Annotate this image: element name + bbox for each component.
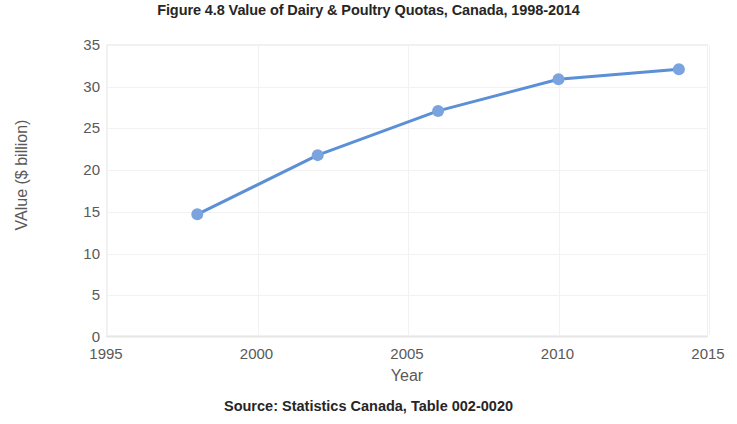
data-point-2006[interactable]: 2006: 27.1 [432,105,444,117]
series-line-chart: 1998: 14.72002: 21.82006: 27.12010: 30.9… [107,45,709,337]
source-note: Source: Statistics Canada, Table 002-002… [0,398,737,414]
x-axis-tick-labels: 19952000200520102015 [106,345,708,367]
y-tick-label-30: 30 [62,77,100,94]
x-tick-label-2000: 2000 [222,345,292,362]
y-axis-title: VAlue ($ billion) [13,75,31,275]
y-tick-label-10: 10 [62,244,100,261]
y-tick-label-20: 20 [62,161,100,178]
data-point-2010[interactable]: 2010: 30.9 [553,73,565,85]
x-axis-line [106,336,708,337]
x-axis-title: Year [106,367,708,385]
y-tick-label-15: 15 [62,202,100,219]
y-tick-label-35: 35 [62,36,100,53]
y-tick-label-0: 0 [62,328,100,345]
x-tick-label-2005: 2005 [372,345,442,362]
plot-area: 1998: 14.72002: 21.82006: 27.12010: 30.9… [106,44,708,336]
data-point-2002[interactable]: 2002: 21.8 [312,149,324,161]
gridline-x-2015 [709,45,710,335]
x-tick-label-2015: 2015 [673,345,737,362]
y-tick-label-25: 25 [62,119,100,136]
data-point-2014[interactable]: 2014: 32.1 [673,63,685,75]
series-line [197,69,679,214]
chart-title: Figure 4.8 Value of Dairy & Poultry Quot… [0,2,737,18]
data-point-1998[interactable]: 1998: 14.7 [191,208,203,220]
figure-container: Figure 4.8 Value of Dairy & Poultry Quot… [0,0,737,424]
x-tick-label-1995: 1995 [71,345,141,362]
x-tick-label-2010: 2010 [523,345,593,362]
y-axis-tick-labels: 05101520253035 [56,44,100,336]
y-tick-label-5: 5 [62,286,100,303]
gridline-y-0 [107,337,707,338]
